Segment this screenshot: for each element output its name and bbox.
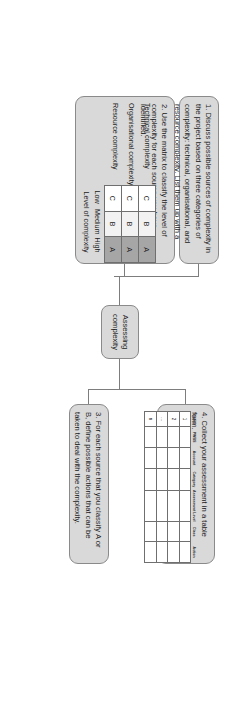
connector-hub-left (119, 276, 120, 306)
assessment-cell[interactable] (179, 447, 190, 468)
diagram-canvas: 1. Discuss possible sources of complexit… (0, 0, 227, 714)
assessment-row-index: ... (156, 412, 167, 427)
connector-right-vertical (89, 389, 186, 390)
assessment-cell[interactable] (168, 469, 179, 491)
hub-node[interactable]: Assessing complexity (101, 305, 139, 359)
assessment-header-class: Class (191, 521, 197, 541)
matrix-cell[interactable]: A (139, 237, 156, 263)
assessment-cell[interactable] (168, 542, 179, 563)
assessment-cell[interactable] (179, 521, 190, 541)
connector-step1-vertical (114, 276, 199, 277)
matrix-row: C B A (139, 186, 156, 263)
connector-hub-right (119, 359, 120, 389)
assessment-cell[interactable] (145, 521, 156, 541)
assessment-cell[interactable] (145, 469, 156, 491)
matrix-cell[interactable]: C (122, 186, 139, 212)
assessment-cell[interactable] (168, 427, 179, 448)
matrix-cell[interactable]: B (122, 211, 139, 237)
matrix-row: C B A (105, 186, 122, 263)
matrix-column-label-high: High (93, 233, 102, 257)
assessment-cell[interactable] (179, 427, 190, 448)
matrix-cell[interactable]: A (122, 237, 139, 263)
matrix-row-label-technical: Technical complexity (143, 103, 152, 169)
assessment-table-row: n (145, 412, 156, 563)
assessment-cell[interactable] (179, 490, 190, 521)
assessment-cell[interactable] (145, 542, 156, 563)
connector-step4-horizontal (185, 389, 186, 405)
assessment-header-assessment-level: Assessment Level (191, 490, 197, 521)
assessment-cell[interactable] (168, 447, 179, 468)
assessment-cell[interactable] (145, 427, 156, 448)
assessment-header-source: Source (191, 412, 197, 427)
assessment-row-index: 2 (168, 412, 179, 427)
matrix-grid: C B A C B A C B A (104, 185, 156, 263)
assessment-cell[interactable] (156, 447, 167, 468)
diagram-surface: 1. Discuss possible sources of complexit… (0, 0, 227, 714)
assessment-table-header-row: Source PWBS Account Category Assessment … (191, 412, 197, 563)
assessment-row-index: n (145, 412, 156, 427)
assessment-header-category: Category (191, 469, 197, 491)
matrix-cell[interactable]: C (139, 186, 156, 212)
assessment-cell[interactable] (156, 490, 167, 521)
assessment-cell[interactable] (145, 490, 156, 521)
connector-step3-horizontal (88, 389, 89, 405)
step-3-box[interactable]: 3. For each source that you classify A o… (69, 404, 109, 564)
matrix-row-label-resource: Resource complexity (111, 103, 120, 170)
matrix-cell[interactable]: B (139, 211, 156, 237)
matrix-row-label-organisational: Organisational complexity (127, 103, 136, 185)
step-2-box[interactable]: 2. Use the matrix to classify the level … (75, 96, 175, 264)
assessment-table-row: 2 (168, 412, 179, 563)
assessment-table-row: ... (156, 412, 167, 563)
assessment-cell[interactable] (168, 490, 179, 521)
matrix-row: C B A (122, 186, 139, 263)
matrix-axis-title: Level of complexity (82, 185, 91, 259)
assessment-cell[interactable] (156, 542, 167, 563)
assessment-row-index: 1 (179, 412, 190, 427)
hub-label-line-2: complexity (110, 314, 120, 350)
step-3-text: 3. For each source that you classify A o… (72, 412, 103, 556)
assessment-cell[interactable] (156, 427, 167, 448)
step-1-box[interactable]: 1. Discuss possible sources of complexit… (179, 96, 219, 264)
assessment-cell[interactable] (145, 447, 156, 468)
connector-step2-horizontal (124, 264, 125, 277)
matrix-column-label-medium: Medium (93, 209, 102, 233)
assessment-cell[interactable] (179, 542, 190, 563)
matrix-column-label-low: Low (93, 185, 102, 209)
assessment-table: Source PWBS Account Category Assessment … (144, 411, 196, 563)
assessment-header-action: Action (191, 542, 197, 563)
assessment-cell[interactable] (156, 469, 167, 491)
matrix-cell[interactable]: C (105, 186, 122, 212)
connector-step1-horizontal (198, 264, 199, 277)
assessment-cell[interactable] (179, 469, 190, 491)
assessment-header-pwbs: PWBS (191, 427, 197, 448)
assessment-header-account: Account (191, 447, 197, 468)
assessment-cell[interactable] (168, 521, 179, 541)
hub-label-line-1: Assessing (120, 314, 130, 350)
assessment-cell[interactable] (156, 521, 167, 541)
step-4-box[interactable]: 4. Collect your assessment in a table fo… (157, 404, 215, 564)
matrix-cell[interactable]: A (105, 237, 122, 263)
assessment-table-row: 1 (179, 412, 190, 563)
matrix-cell[interactable]: B (105, 211, 122, 237)
